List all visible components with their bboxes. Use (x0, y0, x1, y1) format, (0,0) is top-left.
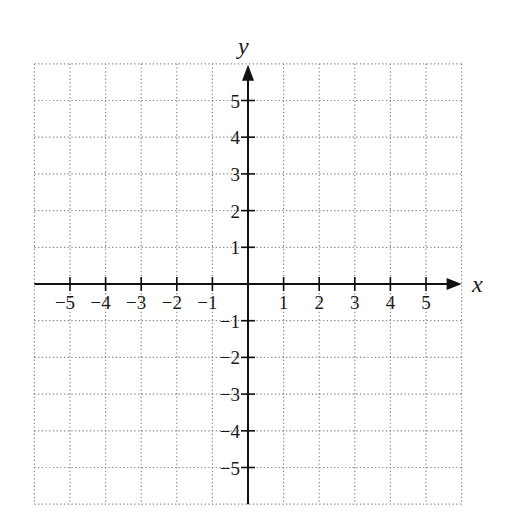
x-tick-label: −3 (126, 292, 146, 313)
y-tick-label: 5 (231, 91, 241, 112)
y-tick-label: −1 (220, 311, 240, 332)
x-tick-label: −5 (55, 292, 75, 313)
x-tick-label: 1 (279, 292, 289, 313)
x-tick-label: 5 (421, 292, 431, 313)
y-tick-label: −4 (220, 421, 241, 442)
x-tick-label: 3 (350, 292, 360, 313)
x-axis-label: x (471, 271, 483, 297)
y-tick-label: −5 (220, 458, 240, 479)
x-tick-label: −2 (162, 292, 182, 313)
y-tick-label: −2 (220, 347, 240, 368)
y-axis-label: y (236, 33, 249, 59)
x-tick-label: −4 (90, 292, 111, 313)
y-tick-label: 3 (231, 164, 241, 185)
y-tick-label: 4 (231, 127, 241, 148)
x-tick-label: 2 (314, 292, 324, 313)
y-tick-label: 2 (231, 201, 241, 222)
y-tick-label: 1 (231, 237, 241, 258)
y-tick-label: −3 (220, 384, 240, 405)
y-axis-arrow-icon (242, 65, 254, 81)
x-tick-label: 4 (386, 292, 396, 313)
coordinate-plane: −5−4−3−2−11234554321−1−2−3−4−5 x y (0, 0, 509, 529)
x-tick-label: −1 (197, 292, 217, 313)
axes (34, 65, 461, 504)
x-axis-arrow-icon (447, 278, 462, 290)
